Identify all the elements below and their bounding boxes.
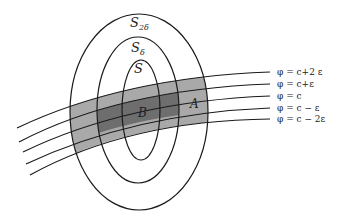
level-set-diagram: S2δ Sδ S A B φ = c+2 ε φ = c+ε φ = c φ =… xyxy=(0,0,338,223)
label-c-minus-2eps: φ = c − 2ε xyxy=(277,114,326,124)
level-line-labels: φ = c+2 ε φ = c+ε φ = c φ = c − ε φ = c … xyxy=(277,67,326,124)
label-s-2delta: S2δ xyxy=(130,15,149,32)
region-label-a: A xyxy=(189,97,199,111)
label-c-plus-2eps: φ = c+2 ε xyxy=(277,67,323,77)
region-label-b: B xyxy=(137,106,147,120)
label-s-delta: Sδ xyxy=(131,40,145,57)
diagram-svg: S2δ Sδ S A B φ = c+2 ε φ = c+ε φ = c φ =… xyxy=(0,0,338,223)
label-s: S xyxy=(134,61,143,76)
label-c: φ = c xyxy=(277,91,302,101)
label-c-plus-eps: φ = c+ε xyxy=(277,79,314,89)
label-c-minus-eps: φ = c − ε xyxy=(277,103,320,113)
